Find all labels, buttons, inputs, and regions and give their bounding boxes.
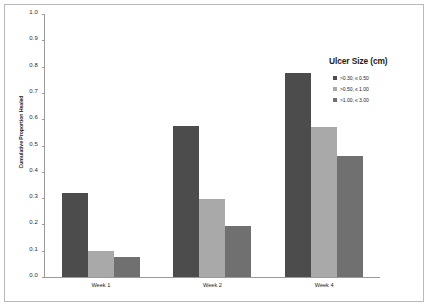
y-axis-tick-label: 0.5 [29,141,38,147]
bar [88,251,114,277]
plot-area: Week 1Week 2Week 4 [45,14,380,277]
legend-swatch-icon [333,87,337,91]
bar-group: Week 4 [268,14,380,277]
bar [173,126,199,277]
bar-group: Week 1 [45,14,157,277]
x-axis-tick-label: Week 2 [157,282,269,288]
y-axis-tick-label: 0.9 [29,35,38,41]
chart-figure: Cumulative Proportion Healed 0.00.10.20.… [0,0,429,307]
bar [62,193,88,277]
bar-group-bars [268,14,380,277]
y-axis-tick-label: 0.6 [29,114,38,120]
legend: Ulcer Size (cm) >0.30, ≤ 0.50>0.50, ≤ 1.… [329,56,425,108]
bar [225,226,251,277]
legend-item: >0.30, ≤ 0.50 [333,75,425,81]
legend-item-label: >1.00, ≤ 3.00 [340,97,369,103]
y-axis-tick-label: 0.3 [29,193,38,199]
legend-item: >1.00, ≤ 3.00 [333,97,425,103]
legend-swatch-icon [333,98,337,102]
x-axis-tick-label: Week 1 [45,282,157,288]
bar [311,127,337,277]
y-axis-title: Cumulative Proportion Healed [16,0,26,263]
y-axis-tick-label: 0.7 [29,88,38,94]
bar-group-bars [157,14,269,277]
y-axis-tick-label: 0.1 [29,246,38,252]
x-axis-tick-label: Week 4 [268,282,380,288]
bar-group-bars [45,14,157,277]
y-axis-title-label: Cumulative Proportion Healed [18,95,24,168]
y-axis-tick-label: 0.8 [29,62,38,68]
y-axis-tick-label: 0.0 [29,272,38,278]
legend-title: Ulcer Size (cm) [329,56,425,66]
y-axis-tick-label: 1.0 [29,9,38,15]
legend-swatch-icon [333,76,337,80]
bar [285,73,311,277]
bar [337,156,363,278]
legend-item-label: >0.50, ≤ 1.00 [340,86,369,92]
bar [199,199,225,277]
legend-item-label: >0.30, ≤ 0.50 [340,75,369,81]
y-axis-tick-label: 0.4 [29,167,38,173]
bar [114,257,140,278]
y-axis-tick-label: 0.2 [29,219,38,225]
legend-entries: >0.30, ≤ 0.50>0.50, ≤ 1.00>1.00, ≤ 3.00 [329,75,425,103]
x-axis-line [44,277,380,278]
y-axis-tick-mark [42,277,45,278]
bar-group: Week 2 [157,14,269,277]
legend-item: >0.50, ≤ 1.00 [333,86,425,92]
